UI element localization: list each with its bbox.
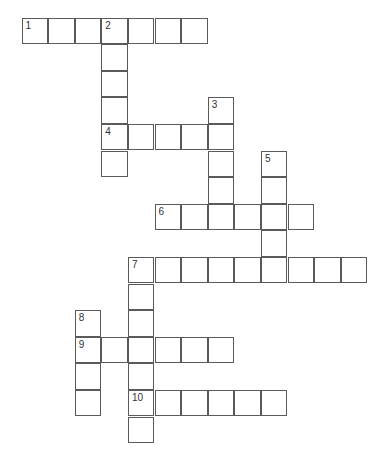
crossword-cell[interactable] — [155, 337, 182, 364]
crossword-cell[interactable] — [75, 390, 102, 417]
crossword-cell[interactable]: 9 — [75, 337, 102, 364]
crossword-cell[interactable] — [208, 257, 235, 284]
crossword-cell[interactable] — [234, 257, 261, 284]
crossword-cell[interactable] — [261, 390, 288, 417]
crossword-cell[interactable] — [101, 151, 128, 178]
crossword-cell[interactable] — [208, 390, 235, 417]
clue-number: 7 — [132, 260, 138, 270]
crossword-cell[interactable] — [128, 18, 155, 45]
crossword-cell[interactable]: 10 — [128, 390, 155, 417]
crossword-cell[interactable] — [155, 257, 182, 284]
crossword-cell[interactable] — [101, 97, 128, 124]
crossword-cell[interactable] — [181, 204, 208, 231]
crossword-cell[interactable] — [208, 177, 235, 204]
crossword-cell[interactable]: 2 — [101, 18, 128, 45]
clue-number: 10 — [132, 393, 143, 403]
crossword-cell[interactable] — [234, 204, 261, 231]
crossword-cell[interactable] — [181, 390, 208, 417]
crossword-cell[interactable] — [128, 284, 155, 311]
crossword-cell[interactable] — [208, 124, 235, 151]
crossword-cell[interactable] — [128, 124, 155, 151]
crossword-cell[interactable] — [101, 44, 128, 71]
crossword-cell[interactable] — [288, 257, 315, 284]
clue-number: 9 — [79, 340, 85, 350]
crossword-cell[interactable] — [128, 310, 155, 337]
crossword-cell[interactable] — [181, 18, 208, 45]
clue-number: 1 — [26, 21, 32, 31]
crossword-cell[interactable] — [75, 363, 102, 390]
crossword-cell[interactable]: 3 — [208, 97, 235, 124]
crossword-cell[interactable] — [288, 204, 315, 231]
crossword-cell[interactable] — [261, 204, 288, 231]
crossword-cell[interactable] — [341, 257, 368, 284]
crossword-cell[interactable] — [261, 177, 288, 204]
crossword-cell[interactable] — [48, 18, 75, 45]
clue-number: 2 — [105, 21, 111, 31]
crossword-cell[interactable]: 4 — [101, 124, 128, 151]
clue-number: 6 — [159, 207, 165, 217]
crossword-cell[interactable] — [155, 18, 182, 45]
crossword-cell[interactable] — [101, 337, 128, 364]
crossword-cell[interactable] — [208, 337, 235, 364]
crossword-grid: 12435671089 — [0, 0, 388, 472]
crossword-cell[interactable] — [181, 257, 208, 284]
clue-number: 8 — [79, 313, 85, 323]
crossword-cell[interactable] — [234, 390, 261, 417]
crossword-cell[interactable] — [261, 230, 288, 257]
crossword-cell[interactable] — [75, 18, 102, 45]
clue-number: 4 — [105, 127, 111, 137]
crossword-cell[interactable] — [155, 124, 182, 151]
crossword-cell[interactable]: 1 — [22, 18, 49, 45]
clue-number: 5 — [265, 154, 271, 164]
crossword-cell[interactable] — [101, 71, 128, 98]
crossword-cell[interactable] — [208, 204, 235, 231]
crossword-cell[interactable] — [261, 257, 288, 284]
crossword-cell[interactable] — [128, 417, 155, 444]
crossword-cell[interactable]: 7 — [128, 257, 155, 284]
crossword-cell[interactable]: 5 — [261, 151, 288, 178]
crossword-cell[interactable] — [181, 337, 208, 364]
clue-number: 3 — [212, 100, 218, 110]
crossword-cell[interactable] — [314, 257, 341, 284]
crossword-cell[interactable] — [155, 390, 182, 417]
crossword-cell[interactable] — [208, 151, 235, 178]
crossword-cell[interactable] — [181, 124, 208, 151]
crossword-cell[interactable] — [128, 363, 155, 390]
crossword-cell[interactable]: 8 — [75, 310, 102, 337]
crossword-cell[interactable]: 6 — [155, 204, 182, 231]
crossword-cell[interactable] — [128, 337, 155, 364]
